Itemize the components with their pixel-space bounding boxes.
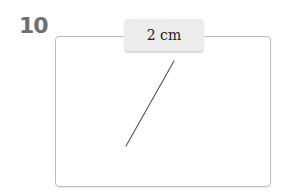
- line-segment: [0, 0, 285, 196]
